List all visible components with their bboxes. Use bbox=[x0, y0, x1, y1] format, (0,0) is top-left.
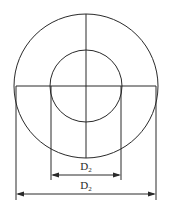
inner-diameter-label: D2 bbox=[80, 161, 91, 174]
inner-diameter-label-subscript: 2 bbox=[88, 166, 92, 174]
outer-diameter-label-main: D bbox=[80, 179, 88, 191]
outer-dimension-arrow-left-icon bbox=[16, 192, 24, 197]
outer-diameter-label: D2 bbox=[80, 180, 91, 193]
inner-dimension-arrow-left-icon bbox=[51, 173, 59, 178]
inner-dimension-arrow-right-icon bbox=[113, 173, 121, 178]
outer-dimension-arrow-right-icon bbox=[148, 192, 156, 197]
outer-diameter-label-subscript: 2 bbox=[88, 185, 92, 193]
inner-diameter-label-main: D bbox=[80, 160, 88, 172]
